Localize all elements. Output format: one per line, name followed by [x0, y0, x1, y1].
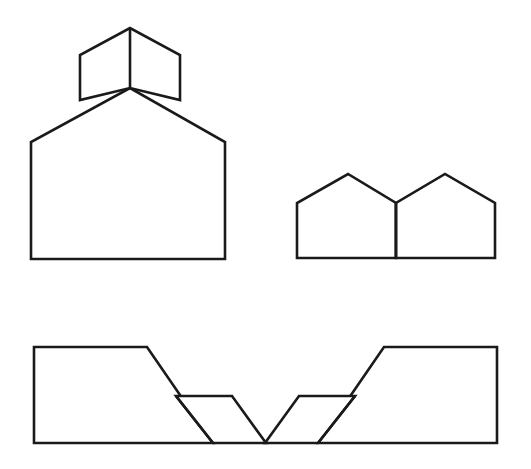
left-pentagon: [297, 174, 396, 258]
geometric-figures-sheet: [0, 0, 531, 469]
figure-top-right: [297, 174, 495, 258]
right-pentagon: [396, 174, 495, 258]
figures-canvas: [0, 0, 531, 469]
figure-bottom-right: [265, 347, 497, 443]
figure-top-left: [31, 28, 225, 259]
large-pentagon-body: [31, 88, 225, 259]
figure-bottom-left: [34, 347, 266, 443]
